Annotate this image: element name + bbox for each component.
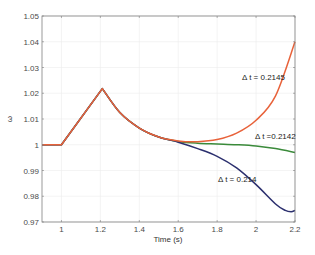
y-axis-label: ω: [5, 116, 14, 122]
chart-svg: 11.21.41.61.822.20.970.980.9911.011.021.…: [0, 0, 315, 255]
y-tick-label: 1.03: [23, 64, 39, 73]
annotation-dt-0214: Δ t = 0.214: [218, 175, 257, 184]
annotation-dt-02145: Δ t = 0.2145: [242, 73, 285, 82]
axis-ticks: 11.21.41.61.822.20.970.980.9911.011.021.…: [23, 12, 301, 234]
y-tick-label: 0.98: [23, 192, 39, 201]
x-tick-label: 1.2: [95, 225, 107, 234]
x-tick-label: 1.4: [134, 225, 146, 234]
x-tick-label: 2: [254, 225, 259, 234]
annotation-dt-02142: Δ t =0.2142: [255, 132, 296, 141]
x-tick-label: 2.2: [289, 225, 301, 234]
series-line: [42, 89, 295, 212]
y-tick-label: 1.01: [23, 115, 39, 124]
y-tick-label: 1.04: [23, 38, 39, 47]
y-tick-label: 0.97: [23, 218, 39, 227]
x-tick-label: 1: [59, 225, 64, 234]
x-axis-label: Time (s): [153, 235, 182, 244]
y-tick-label: 1.05: [23, 12, 39, 21]
y-tick-label: 1.02: [23, 89, 39, 98]
y-tick-label: 0.99: [23, 167, 39, 176]
x-tick-label: 1.6: [173, 225, 185, 234]
y-tick-label: 1: [35, 141, 40, 150]
x-tick-label: 1.8: [212, 225, 224, 234]
